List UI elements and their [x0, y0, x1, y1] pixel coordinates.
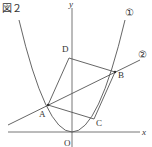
point-b-label: B: [118, 70, 124, 80]
y-axis-label: y: [68, 0, 73, 9]
x-axis-label: x: [141, 127, 146, 137]
point-d-label: D: [62, 44, 69, 54]
point-c-label: C: [96, 118, 102, 128]
diagram: 図２ y x O D A B C ① ②: [0, 0, 152, 147]
point-b: [114, 71, 116, 73]
point-a-label: A: [39, 109, 46, 119]
origin-label: O: [64, 138, 71, 147]
figure-title: 図２: [2, 3, 22, 14]
point-a: [47, 104, 49, 106]
curve-1-label: ①: [125, 7, 134, 18]
curve-2-label: ②: [138, 49, 147, 60]
